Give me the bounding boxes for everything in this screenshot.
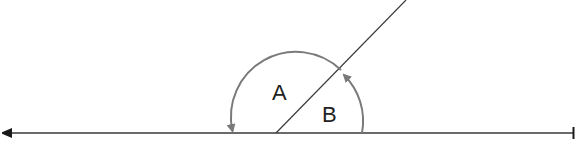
angle-b-arc-arrow <box>344 75 363 133</box>
diagonal-ray <box>276 0 406 133</box>
angle-b-label: B <box>322 102 337 127</box>
angle-diagram: A B <box>0 0 575 146</box>
angle-a-label: A <box>272 80 287 105</box>
